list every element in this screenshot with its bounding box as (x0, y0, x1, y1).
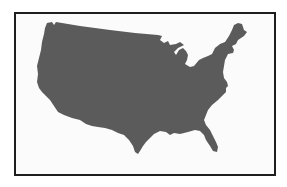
us-map (0, 0, 287, 187)
us-silhouette (37, 22, 247, 154)
